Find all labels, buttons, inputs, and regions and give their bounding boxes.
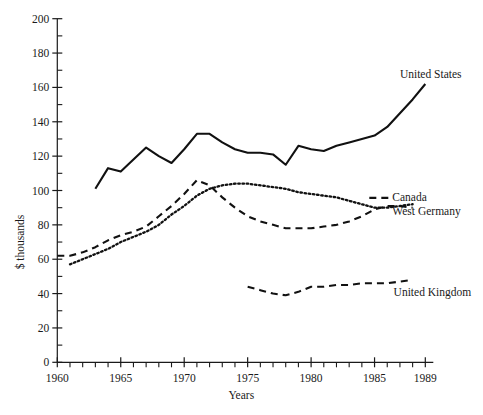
series-line-canada: [70, 184, 413, 265]
y-axis-title: $ thousands: [14, 214, 26, 269]
series-label-canada: Canada: [392, 191, 426, 203]
y-tick-label: 160: [32, 81, 50, 93]
y-tick-label: 200: [32, 13, 50, 25]
chart-series-labels: United StatesWest GermanyCanadaUnited Ki…: [369, 68, 471, 299]
series-line-west-germany: [57, 180, 412, 256]
y-tick-label: 180: [32, 47, 50, 59]
x-tick-label: 1989: [414, 372, 437, 384]
y-tick-label: 100: [32, 185, 50, 197]
x-tick-label: 1970: [173, 372, 196, 384]
x-axis-title: Years: [228, 389, 254, 401]
x-tick-label: 1980: [300, 372, 323, 384]
series-label-united-states: United States: [400, 68, 462, 80]
y-tick-label: 80: [38, 219, 50, 231]
y-tick-label: 140: [32, 116, 50, 128]
chart-series: [57, 84, 425, 295]
chart-canvas: 0204060801001201401601802001960196519701…: [0, 0, 483, 415]
series-line-united-states: [95, 84, 425, 189]
x-tick-label: 1965: [109, 372, 132, 384]
y-tick-label: 20: [38, 322, 50, 334]
y-tick-label: 120: [32, 150, 50, 162]
series-line-united-kingdom: [248, 280, 413, 295]
x-tick-label: 1975: [236, 372, 259, 384]
y-tick-label: 0: [44, 356, 50, 368]
x-tick-label: 1960: [46, 372, 69, 384]
series-label-west-germany: West Germany: [392, 205, 461, 218]
y-tick-label: 40: [38, 288, 50, 300]
line-chart: 0204060801001201401601802001960196519701…: [0, 0, 483, 415]
series-label-united-kingdom: United Kingdom: [394, 286, 472, 299]
y-tick-label: 60: [38, 253, 50, 265]
x-tick-label: 1985: [363, 372, 386, 384]
